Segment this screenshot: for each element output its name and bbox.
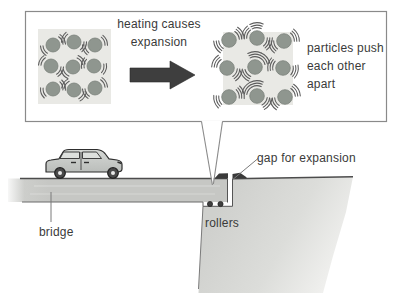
particle-circle xyxy=(44,59,58,73)
particle-circle xyxy=(222,33,237,48)
heating-caption: heating causes expansion xyxy=(103,15,215,51)
car-rear-hub xyxy=(58,171,62,175)
particle-circle xyxy=(250,31,265,46)
particle-circle xyxy=(88,81,102,95)
particle-circle xyxy=(277,34,292,49)
gap-label: gap for expansion xyxy=(257,149,356,167)
car-rear-window xyxy=(60,152,80,159)
particle-circle xyxy=(46,82,60,96)
roller xyxy=(218,201,223,206)
particle-circle xyxy=(222,90,237,105)
bridge-deck xyxy=(8,179,228,203)
particle-circle xyxy=(46,38,60,52)
rollers-label: rollers xyxy=(205,214,239,232)
roller xyxy=(207,201,212,206)
particle-circle xyxy=(67,83,81,97)
thermal-expansion-diagram: heating causes expansion particles push … xyxy=(0,0,407,293)
particle-circle xyxy=(220,61,235,76)
particle-circle xyxy=(66,60,80,74)
particle-circle xyxy=(248,60,263,75)
gap-edge-left xyxy=(215,173,229,178)
cool-particle-box xyxy=(38,29,111,104)
particle-circle xyxy=(88,38,102,52)
bridge-label: bridge xyxy=(39,223,74,241)
car xyxy=(46,150,122,179)
particle-circle xyxy=(276,61,291,76)
particle-circle xyxy=(250,89,265,104)
particle-circle xyxy=(67,35,81,49)
particles-caption: particles push each other apart xyxy=(307,39,391,93)
particle-circle xyxy=(278,90,293,105)
hot-particle-box xyxy=(212,23,301,110)
gap-leader-line xyxy=(233,159,258,180)
particle-circle xyxy=(87,59,101,73)
bridge-deck-fill xyxy=(8,179,228,203)
car-front-hub xyxy=(111,171,115,175)
